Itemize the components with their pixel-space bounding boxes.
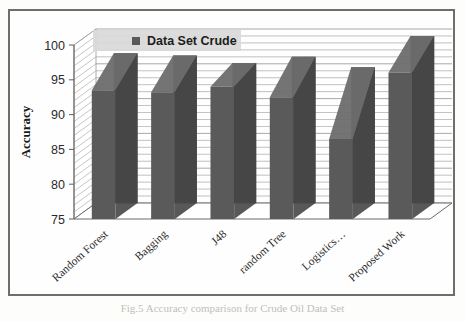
x-axis-category-label: Random Forest <box>50 227 111 284</box>
y-axis-tick-label: 100 <box>44 39 65 53</box>
legend: Data Set Crude <box>93 30 241 51</box>
x-axis-category-label: Bagging <box>132 227 170 263</box>
bar-front-face <box>329 139 353 219</box>
bar-side-face <box>234 63 256 219</box>
x-axis-category-label: Proposed Work <box>346 227 407 284</box>
bar-front-face <box>270 97 294 219</box>
bar-front-face <box>151 92 175 219</box>
legend-swatch-icon <box>132 37 140 45</box>
bar-front-face <box>210 87 234 219</box>
y-axis-title: Accuracy <box>18 105 33 158</box>
legend-label: Data Set Crude <box>147 34 237 48</box>
x-axis-category-label: random Tree <box>237 228 288 276</box>
bar-chart: 7580859095100AccuracyRandom ForestBaggin… <box>10 11 453 294</box>
figure-frame: 7580859095100AccuracyRandom ForestBaggin… <box>8 9 455 296</box>
chart-canvas: 7580859095100AccuracyRandom ForestBaggin… <box>10 11 453 294</box>
bar-group[interactable] <box>210 63 256 219</box>
y-axis-tick-label: 75 <box>51 213 65 227</box>
x-axis-category-label: Logistics… <box>299 228 348 274</box>
bar-front-face <box>92 90 116 219</box>
y-axis: 7580859095100 <box>44 39 74 227</box>
y-axis-tick-label: 95 <box>51 73 65 87</box>
x-axis-category-label: J48 <box>209 227 229 247</box>
bar-front-face <box>388 73 412 219</box>
figure-caption-strip: Fig.5 Accuracy comparison for Crude Oil … <box>0 298 465 322</box>
y-axis-tick-label: 85 <box>51 143 65 157</box>
bar-group[interactable] <box>388 36 434 219</box>
y-axis-tick-label: 90 <box>51 108 65 122</box>
y-axis-tick-label: 80 <box>51 178 65 192</box>
figure-caption: Fig.5 Accuracy comparison for Crude Oil … <box>0 302 465 314</box>
